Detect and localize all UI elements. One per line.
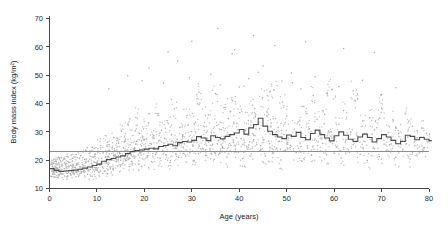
scatter-point	[381, 130, 382, 131]
scatter-point	[83, 149, 84, 150]
scatter-point	[383, 140, 385, 142]
scatter-point	[318, 111, 319, 112]
scatter-point	[362, 80, 364, 82]
scatter-point	[191, 139, 192, 140]
scatter-point	[69, 159, 70, 160]
scatter-point	[289, 147, 290, 148]
scatter-point	[275, 118, 276, 119]
scatter-point	[388, 125, 389, 126]
scatter-point	[72, 168, 73, 169]
scatter-point	[299, 158, 300, 159]
scatter-point	[342, 117, 343, 118]
scatter-point	[168, 165, 169, 166]
chart-canvas: 10203040506070 01020304050607080 Age (ye…	[0, 0, 448, 233]
scatter-point	[66, 163, 67, 164]
scatter-point	[99, 176, 100, 177]
scatter-point	[127, 143, 128, 144]
scatter-point	[145, 158, 146, 159]
scatter-point	[67, 153, 68, 154]
scatter-point	[176, 102, 177, 103]
scatter-point	[143, 144, 144, 145]
scatter-point	[71, 177, 72, 178]
scatter-point	[53, 171, 54, 172]
scatter-point	[206, 129, 207, 130]
scatter-point	[72, 160, 73, 161]
scatter-point	[301, 145, 302, 146]
scatter-point	[101, 158, 103, 160]
scatter-point	[253, 139, 254, 140]
scatter-point	[86, 159, 87, 160]
scatter-point	[354, 138, 355, 139]
scatter-point	[188, 136, 189, 137]
scatter-point	[191, 137, 192, 138]
scatter-point	[151, 132, 152, 133]
scatter-point	[129, 144, 131, 146]
scatter-point	[223, 148, 224, 149]
scatter-point	[314, 116, 315, 117]
scatter-point	[278, 131, 279, 132]
scatter-point	[194, 128, 195, 129]
scatter-point	[108, 88, 110, 90]
scatter-point	[118, 158, 119, 159]
scatter-point	[170, 126, 171, 127]
scatter-point	[110, 173, 111, 174]
scatter-point	[335, 96, 336, 97]
scatter-point	[242, 166, 243, 167]
scatter-point	[184, 136, 185, 137]
scatter-point	[379, 100, 380, 101]
scatter-point	[354, 99, 355, 100]
scatter-point	[116, 147, 117, 148]
y-tick-label: 30	[35, 128, 43, 137]
scatter-point	[64, 175, 66, 177]
scatter-point	[54, 174, 56, 176]
x-tick-label: 0	[47, 194, 51, 203]
scatter-point	[86, 149, 87, 150]
scatter-point	[126, 160, 127, 161]
scatter-point	[250, 101, 251, 102]
scatter-point	[377, 157, 378, 158]
scatter-point	[289, 148, 290, 149]
scatter-point	[138, 132, 139, 133]
scatter-point	[192, 113, 193, 114]
scatter-point	[66, 168, 67, 169]
scatter-point	[251, 121, 252, 122]
scatter-point	[100, 147, 101, 148]
scatter-point	[397, 130, 399, 132]
scatter-point	[372, 126, 373, 127]
scatter-point	[369, 110, 370, 111]
scatter-point	[210, 114, 211, 115]
scatter-point	[337, 129, 338, 130]
scatter-point	[109, 144, 110, 145]
scatter-point	[282, 101, 284, 103]
scatter-point	[304, 157, 305, 158]
scatter-point	[251, 112, 252, 113]
scatter-point	[198, 129, 199, 130]
scatter-point	[197, 118, 198, 119]
scatter-point	[293, 149, 294, 150]
scatter-point	[142, 142, 143, 143]
scatter-point	[115, 154, 116, 155]
scatter-point	[311, 86, 312, 87]
scatter-point	[297, 161, 298, 162]
scatter-point	[142, 158, 144, 160]
scatter-point	[189, 149, 190, 150]
scatter-point	[380, 94, 381, 95]
scatter-point	[218, 140, 220, 142]
scatter-point	[137, 112, 138, 113]
scatter-point	[414, 145, 416, 147]
scatter-point	[342, 139, 343, 140]
scatter-point	[325, 152, 326, 153]
scatter-point	[264, 90, 265, 91]
scatter-point	[175, 118, 176, 119]
scatter-point	[286, 143, 287, 144]
scatter-point	[135, 117, 137, 119]
scatter-point	[156, 134, 157, 135]
scatter-point	[307, 145, 308, 146]
scatter-point	[120, 158, 121, 159]
scatter-point	[80, 167, 81, 168]
scatter-point	[107, 163, 108, 164]
scatter-point	[335, 117, 336, 118]
scatter-point	[134, 163, 135, 164]
scatter-point	[319, 126, 320, 127]
scatter-point	[248, 114, 249, 115]
